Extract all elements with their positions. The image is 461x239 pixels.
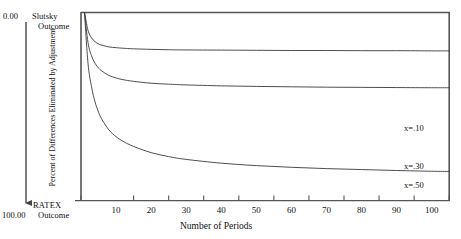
chart-canvas	[0, 0, 461, 239]
curve-label-x10: x=.10	[404, 123, 424, 133]
scale-bottom-value: 100.00	[2, 210, 25, 220]
x-tick-label: 100	[425, 205, 439, 215]
y-axis-title: Percent of Differences Eliminated by Adj…	[48, 18, 57, 198]
curve-label-x30: x=.30	[404, 161, 424, 171]
x-tick-label: 30	[182, 205, 191, 215]
scale-top-value: 0.00	[3, 11, 18, 21]
x-tick-label: 80	[357, 205, 366, 215]
curve-x50	[85, 13, 450, 51]
x-tick-label: 60	[287, 205, 296, 215]
x-tick-label: 50	[252, 205, 261, 215]
x-tick-label: 70	[322, 205, 331, 215]
data-curves	[85, 13, 450, 172]
x-tick-marks	[81, 196, 449, 201]
x-tick-label: 10	[112, 205, 121, 215]
x-tick-label: 90	[392, 205, 401, 215]
scale-bottom-label-line2: Outcome	[38, 210, 69, 220]
scale-bottom-label-line1: RATEX	[33, 200, 61, 210]
chart-figure: 0.00 Slutsky Outcome RATEX 100.00 Outcom…	[0, 0, 461, 239]
x-tick-label: 20	[147, 205, 156, 215]
x-tick-label: 40	[217, 205, 226, 215]
x-axis-title: Number of Periods	[180, 221, 252, 231]
curve-x10	[85, 13, 450, 172]
curve-label-x50: x=.50	[404, 180, 424, 190]
